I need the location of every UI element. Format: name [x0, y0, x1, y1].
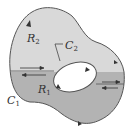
label-r2: R2: [27, 33, 40, 46]
label-r1: R1: [38, 84, 51, 97]
label-c1: C1: [7, 95, 20, 108]
region-diagram: [0, 0, 133, 135]
label-c2: C2: [65, 40, 78, 53]
